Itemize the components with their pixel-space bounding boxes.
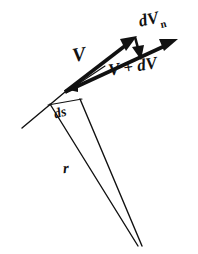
vector-diagram-svg — [0, 0, 198, 254]
figure-canvas: V dVn V + dV ds r — [0, 0, 198, 254]
label-normal-velocity-component: dVn — [137, 7, 167, 33]
label-radius: r — [62, 161, 69, 176]
label-dvn-base: dV — [137, 8, 161, 31]
radius-line-right — [80, 99, 142, 246]
